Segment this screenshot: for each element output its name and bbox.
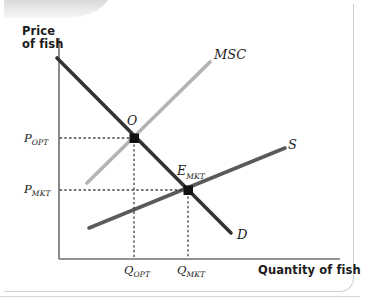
p-mkt-subscript: MKT [32, 189, 51, 198]
y-axis-title: Price of fish [22, 25, 64, 51]
market-equilibrium-symbol: E [177, 163, 186, 178]
q-mkt-tick-label: QMKT [177, 264, 205, 280]
p-opt-tick-label: POPT [24, 132, 49, 148]
p-mkt-tick-label: PMKT [24, 183, 51, 199]
x-axis-title: Quantity of fish [258, 264, 361, 277]
q-opt-tick-label: QOPT [124, 264, 150, 280]
point-marker-optimum [130, 134, 140, 144]
q-mkt-subscript: MKT [186, 270, 205, 279]
point-marker-market-equilibrium [184, 186, 194, 196]
market-equilibrium-point-label: EMKT [177, 164, 205, 181]
supply-curve-label: S [288, 138, 297, 153]
y-axis-title-line1: Price [22, 25, 64, 38]
p-opt-subscript: OPT [32, 138, 49, 147]
q-opt-subscript: OPT [133, 270, 150, 279]
p-mkt-symbol: P [24, 182, 32, 196]
p-opt-symbol: P [24, 131, 32, 145]
optimum-point-label: O [127, 114, 137, 128]
y-axis-title-line2: of fish [22, 38, 64, 51]
optimum-point-symbol: O [127, 113, 137, 128]
figure-root: Price of fish Quantity of fish MSC S D O… [0, 0, 367, 306]
demand-curve-label: D [237, 228, 247, 243]
msc-curve-label: MSC [214, 48, 246, 63]
market-equilibrium-subscript: MKT [186, 172, 205, 181]
